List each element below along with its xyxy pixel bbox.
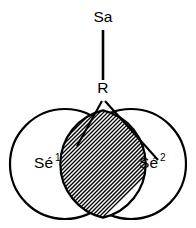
label-referent-r: R [97,79,108,96]
label-signified-two-superscript: 2 [160,152,166,163]
label-signifier-sa: Sa [93,8,112,25]
diagram-canvas: Sa R Sé 1 Sé 2 [0,0,196,228]
label-signified-two-base: Sé [139,154,158,171]
label-signified-one-superscript: 1 [55,152,61,163]
label-signified-one-base: Sé [34,154,53,171]
semiotic-diagram: Sa R Sé 1 Sé 2 [0,0,196,228]
